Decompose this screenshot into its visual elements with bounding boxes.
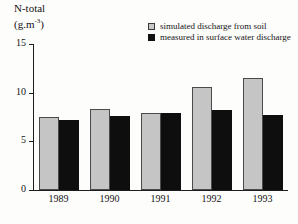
y-axis-tick: 15 [29,44,33,45]
y-axis-tick-label: 10 [16,86,26,98]
y-axis-title-main: N-total [14,2,45,14]
y-axis-tick-label: 5 [21,134,26,146]
bar-simulated [243,78,263,190]
bar-group: 1991 [141,44,181,190]
y-axis-tick: 0 [29,190,33,191]
bar-simulated [39,117,59,190]
black-square-swatch-icon [148,34,155,41]
y-axis-tick: 10 [29,93,33,94]
y-axis-tick: 5 [29,141,33,142]
x-axis-label: 1992 [190,193,234,205]
x-axis-label: 1990 [88,193,132,205]
x-axis-label: 1993 [241,193,285,205]
y-axis-title-unit-close: ) [40,18,44,30]
x-axis-line [33,190,288,191]
y-axis-tick-label: 0 [21,183,26,195]
bar-group: 1989 [39,44,79,190]
legend-item-measured: measured in surface water discharge [148,32,291,43]
y-axis-line [33,44,34,191]
gray-square-swatch-icon [148,23,155,30]
bar-measured [263,115,283,190]
bar-simulated [192,87,212,190]
y-axis-tick-label: 15 [16,37,26,49]
chart-figure: N-total (g.m-3) simulated discharge from… [0,0,298,224]
bar-group: 1990 [90,44,130,190]
y-axis-title: N-total (g.m-3) [14,2,45,31]
bar-measured [212,110,232,190]
bar-group: 1992 [192,44,232,190]
bar-group: 1993 [243,44,283,190]
x-axis-label: 1989 [37,193,81,205]
bar-simulated [141,113,161,190]
bar-simulated [90,109,110,190]
legend-label-measured: measured in surface water discharge [160,32,291,43]
bar-measured [110,116,130,190]
x-axis-label: 1991 [139,193,183,205]
bar-measured [59,120,79,190]
chart-legend: simulated discharge from soil measured i… [148,21,291,43]
legend-label-simulated: simulated discharge from soil [160,21,267,32]
legend-item-simulated: simulated discharge from soil [148,21,291,32]
y-axis-title-unit-base: (g.m [14,18,34,30]
bar-measured [161,113,181,190]
plot-area: 051015 19891990199119921993 [33,44,288,191]
